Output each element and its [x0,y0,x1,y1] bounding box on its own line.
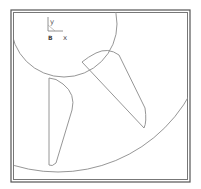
left-profile[interactable] [49,78,73,166]
drawing-frame [11,10,190,182]
y-axis-label: y [50,18,54,26]
x-axis-label: x [63,34,67,42]
drawing-canvas[interactable]: y x B [0,0,201,189]
axis-indicator: y x B [48,17,67,42]
drawing-viewport[interactable]: y x B [0,0,201,189]
large-circle-arc[interactable] [0,0,201,172]
right-profile[interactable] [82,50,146,128]
origin-label: B [48,34,53,41]
